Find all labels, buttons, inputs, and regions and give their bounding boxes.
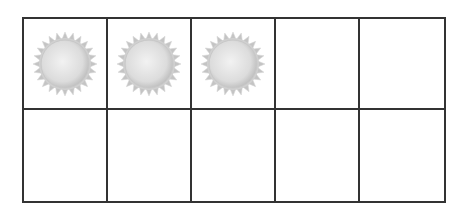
empty-cell [360,19,444,110]
empty-cell [24,110,108,201]
empty-cell [276,19,360,110]
sun-icon [116,31,182,97]
filled-cell [192,19,276,110]
empty-cell [276,110,360,201]
empty-cell [360,110,444,201]
empty-cell [192,110,276,201]
sun-icon [32,31,98,97]
filled-cell [108,19,192,110]
sun-icon [200,31,266,97]
empty-cell [108,110,192,201]
filled-cell [24,19,108,110]
ten-frame [22,17,446,203]
